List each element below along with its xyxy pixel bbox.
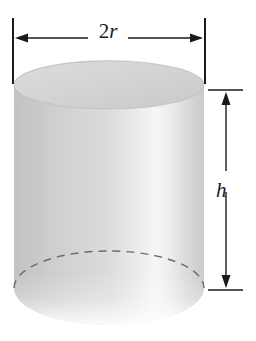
- cylinder-solid: [14, 60, 206, 330]
- diameter-label-variable: r: [109, 19, 117, 43]
- diameter-label-number: 2: [99, 19, 110, 43]
- height-label: h: [216, 180, 227, 201]
- cylinder-diagram-svg: [0, 0, 256, 341]
- cylinder-bottom-fade: [14, 272, 206, 330]
- diameter-arrowhead-left: [15, 34, 28, 43]
- diameter-arrowhead-right: [190, 34, 203, 43]
- height-arrowhead-bottom: [222, 275, 231, 288]
- cylinder-figure: 2r h: [0, 0, 256, 341]
- diameter-label: 2r: [99, 21, 118, 42]
- height-arrowhead-top: [222, 92, 231, 105]
